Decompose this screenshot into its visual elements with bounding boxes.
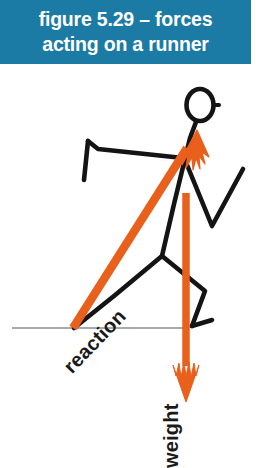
weight-label: weight <box>160 403 183 468</box>
figure-caption-banner: figure 5.29 – forces acting on a runner <box>0 0 251 64</box>
runner-free-body-diagram-svg <box>0 64 256 408</box>
figure-diagram: reaction weight <box>0 64 256 408</box>
weight-arrowhead <box>173 362 199 402</box>
runner-head-icon <box>187 89 214 121</box>
figure-caption-line-2: acting on a runner <box>42 32 209 57</box>
runner-right-arm <box>185 160 243 226</box>
weight-force-arrow <box>173 193 199 402</box>
reaction-arrow-shaft <box>73 148 187 328</box>
figure-caption-line-1: figure 5.29 – forces <box>39 7 213 32</box>
runner-left-forearm <box>84 141 88 180</box>
runner-left-arm <box>88 141 183 158</box>
